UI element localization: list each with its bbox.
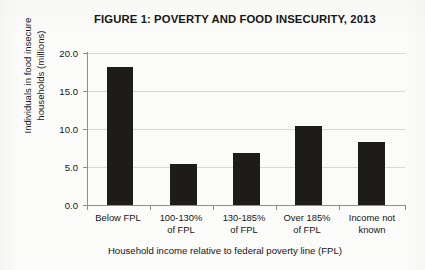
page-title: FIGURE 1: POVERTY AND FOOD INSECURITY, 2… [60,13,410,25]
x-category-label-over-185-fpl-line-1: Over 185% [275,212,339,224]
x-tick-mark-0 [87,205,88,210]
x-category-label-130-185-fpl-line-2: of FPL [212,224,276,236]
x-category-label-100-130-fpl-line-1: 100-130% [149,212,213,224]
x-category-label-income-not-known: Income not known [338,212,406,236]
bar-over-185-fpl [295,126,322,205]
x-tick-mark-3 [276,205,277,210]
chart-figure: FIGURE 1: POVERTY AND FOOD INSECURITY, 2… [0,0,425,270]
bar-100-130-fpl [170,164,197,205]
x-tick-mark-1 [150,205,151,210]
x-axis-title: Household income relative to federal pov… [50,245,400,256]
y-tick-label-5: 5.0 [38,162,78,173]
y-tick-label-15: 15.0 [38,86,78,97]
gridline-10 [87,129,405,130]
y-tick-label-10: 10.0 [38,124,78,135]
x-category-label-income-not-known-line-1: Income not [338,212,406,224]
x-tick-mark-4 [339,205,340,210]
bar-income-not-known [358,142,385,205]
x-category-label-130-185-fpl: 130-185% of FPL [212,212,276,236]
plot-area [87,53,405,205]
x-category-label-income-not-known-line-2: known [338,224,406,236]
x-category-label-100-130-fpl-line-2: of FPL [149,224,213,236]
x-category-label-over-185-fpl: Over 185% of FPL [275,212,339,236]
y-tick-label-0: 0.0 [38,200,78,211]
bar-130-185-fpl [233,153,260,205]
x-tick-mark-5 [405,205,406,210]
x-category-label-below-fpl: Below FPL [86,212,150,224]
x-category-label-100-130-fpl: 100-130% of FPL [149,212,213,236]
y-tick-label-20: 20.0 [38,48,78,59]
bar-below-fpl [107,67,133,205]
y-axis-line [87,52,88,206]
x-category-label-below-fpl-line-1: Below FPL [86,212,150,224]
y-axis-title-line-1: Individuals in food insecure [22,0,35,156]
x-axis-line [87,205,406,206]
x-category-label-over-185-fpl-line-2: of FPL [275,224,339,236]
gridline-20 [87,53,405,54]
x-category-label-130-185-fpl-line-1: 130-185% [212,212,276,224]
x-tick-mark-2 [213,205,214,210]
gridline-15 [87,91,405,92]
